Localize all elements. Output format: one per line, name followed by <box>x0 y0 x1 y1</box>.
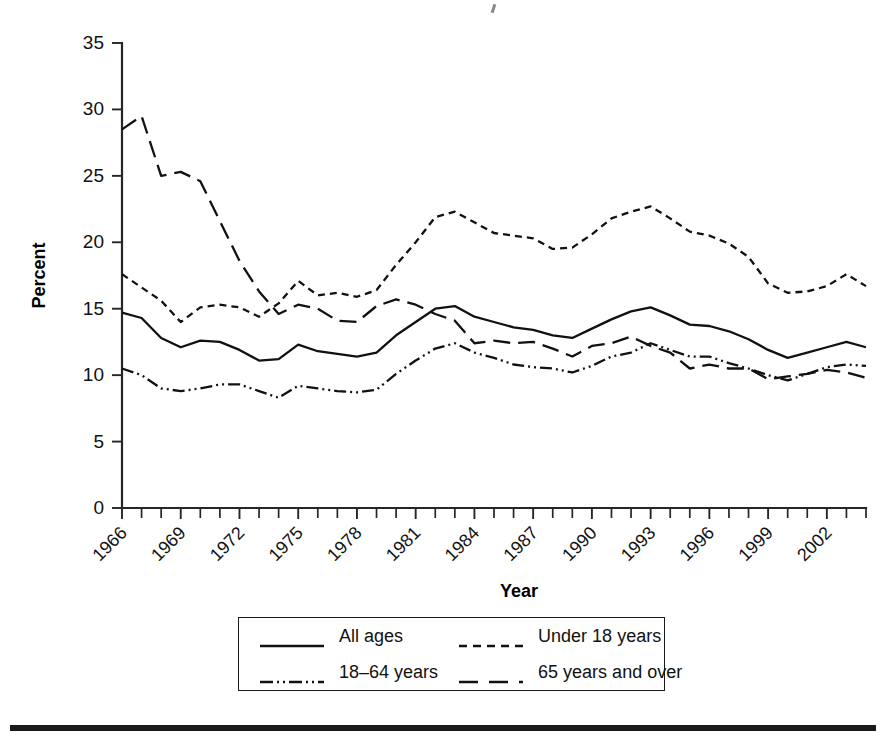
legend-item-label: 65 years and over <box>538 662 682 683</box>
series-line-all-ages <box>122 306 866 360</box>
long-dash-line-sample <box>458 671 524 674</box>
solid-line-sample <box>259 635 325 638</box>
legend-item: Under 18 years <box>438 626 682 647</box>
legend-item: All ages <box>239 626 438 647</box>
bottom-rule-divider <box>10 725 876 731</box>
legend-item: 65 years and over <box>438 662 682 683</box>
y-axis-tick-label: 35 <box>83 32 104 53</box>
x-axis-title: Year <box>500 581 538 601</box>
x-axis-tick-label: 1975 <box>265 523 307 565</box>
x-axis-tick-label: 1978 <box>323 523 365 565</box>
chart-legend: All agesUnder 18 years18–64 years65 year… <box>238 617 665 691</box>
y-axis-tick-label: 20 <box>83 231 104 252</box>
series-line-65-years-and-over <box>122 116 866 379</box>
x-axis-tick-label: 1972 <box>206 523 248 565</box>
x-axis-tick-label: 1984 <box>441 523 483 565</box>
y-axis-tick-label: 30 <box>83 98 104 119</box>
figure-container: 0510152025303519661969197219751978198119… <box>0 0 886 745</box>
legend-item: 18–64 years <box>239 662 438 683</box>
series-line-under-18-years <box>122 206 866 322</box>
x-axis-tick-label: 1969 <box>147 523 189 565</box>
x-axis-tick-label: 1993 <box>617 523 659 565</box>
x-axis-tick-label: 1996 <box>676 523 718 565</box>
dashed-line-sample <box>458 635 524 638</box>
legend-item-label: All ages <box>339 626 403 647</box>
y-axis-tick-label: 5 <box>93 431 104 452</box>
y-axis-tick-label: 10 <box>83 364 104 385</box>
legend-item-label: 18–64 years <box>339 662 438 683</box>
line-chart: 0510152025303519661969197219751978198119… <box>0 0 886 620</box>
y-axis-tick-label: 15 <box>83 298 104 319</box>
dash-dot-dot-line-sample <box>259 671 325 674</box>
x-axis-tick-label: 1987 <box>500 523 542 565</box>
y-axis-tick-label: 25 <box>83 165 104 186</box>
x-axis-tick-label: 1981 <box>382 523 424 565</box>
legend-item-label: Under 18 years <box>538 626 661 647</box>
x-axis-tick-label: 1990 <box>558 523 600 565</box>
x-axis-tick-label: 1966 <box>88 523 130 565</box>
x-axis-tick-label: 2002 <box>793 523 835 565</box>
x-axis-tick-label: 1999 <box>734 523 776 565</box>
y-axis-title: Percent <box>29 242 49 308</box>
y-axis-tick-label: 0 <box>93 497 104 518</box>
